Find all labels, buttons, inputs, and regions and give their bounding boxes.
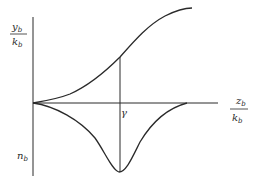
- n-b-label: nb: [17, 150, 28, 163]
- lower-dip-curve: [33, 103, 187, 172]
- x-axis-label: zb kb: [230, 95, 248, 125]
- svg-text:yb: yb: [11, 21, 23, 34]
- svg-text:kb: kb: [232, 112, 243, 125]
- diagram: yb kb zb kb nb γ: [0, 0, 255, 182]
- y-axis-label: yb kb: [10, 21, 27, 49]
- gamma-label: γ: [121, 107, 127, 118]
- svg-text:zb: zb: [235, 95, 246, 108]
- upper-s-curve: [33, 8, 192, 103]
- svg-text:kb: kb: [12, 36, 23, 49]
